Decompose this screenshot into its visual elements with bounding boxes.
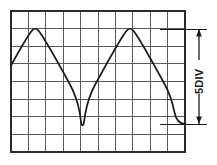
arrow-head-down-icon — [196, 117, 202, 125]
dimension-label: 5DIV — [193, 68, 205, 94]
oscilloscope-figure: 5DIV — [0, 0, 217, 165]
waveform-graticule-svg: 5DIV — [0, 0, 217, 165]
arrow-head-up-icon — [196, 29, 202, 37]
